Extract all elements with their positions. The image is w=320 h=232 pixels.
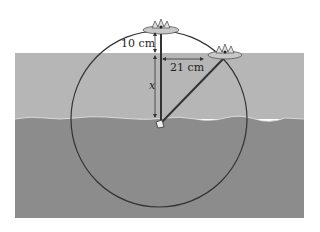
tilted-lily (208, 44, 242, 59)
label-21cm: 21 cm (170, 61, 205, 74)
water-lily-diagram: 10 cm 21 cm x (0, 0, 320, 232)
label-x: x (149, 79, 156, 92)
label-10cm: 10 cm (121, 37, 156, 50)
upright-lily (143, 19, 179, 34)
water-layer (15, 53, 304, 119)
pond-bottom-layer (15, 116, 304, 218)
